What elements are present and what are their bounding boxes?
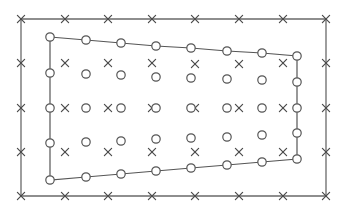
mesh-diagram xyxy=(0,0,344,215)
circle-marker-icon xyxy=(293,78,301,86)
circle-marker-icon xyxy=(117,104,125,112)
circle-marker-icon xyxy=(293,129,301,137)
circle-marker-icon xyxy=(117,170,125,178)
circle-marker-icon xyxy=(152,135,160,143)
circle-marker-icon xyxy=(223,75,231,83)
circle-marker-icon xyxy=(152,73,160,81)
circle-marker-icon xyxy=(258,158,266,166)
circle-marker-icon xyxy=(293,155,301,163)
circle-marker-icon xyxy=(293,52,301,60)
circle-marker-icon xyxy=(223,47,231,55)
circle-marker-icon xyxy=(293,104,301,112)
circle-marker-icon xyxy=(187,74,195,82)
circle-marker-icon xyxy=(46,139,54,147)
circle-marker-icon xyxy=(187,104,195,112)
circle-marker-icon xyxy=(152,104,160,112)
circle-marker-icon xyxy=(46,104,54,112)
circle-marker-icon xyxy=(258,76,266,84)
circle-marker-icon xyxy=(82,104,90,112)
circle-marker-icon xyxy=(258,49,266,57)
circle-marker-icon xyxy=(82,173,90,181)
circle-marker-icon xyxy=(46,176,54,184)
circle-marker-icon xyxy=(223,133,231,141)
circle-marker-icon xyxy=(223,161,231,169)
circle-marker-icon xyxy=(46,33,54,41)
circle-marker-icon xyxy=(117,137,125,145)
circle-marker-icon xyxy=(82,138,90,146)
circle-marker-icon xyxy=(187,164,195,172)
circle-marker-icon xyxy=(152,167,160,175)
circle-marker-icon xyxy=(223,104,231,112)
circle-marker-icon xyxy=(152,42,160,50)
circle-marker-icon xyxy=(187,134,195,142)
circle-marker-icon xyxy=(187,44,195,52)
circle-marker-icon xyxy=(46,69,54,77)
circle-marker-icon xyxy=(117,39,125,47)
circle-marker-icon xyxy=(82,70,90,78)
circle-marker-icon xyxy=(258,131,266,139)
circle-marker-icon xyxy=(258,104,266,112)
circle-marker-icon xyxy=(82,36,90,44)
circle-marker-icon xyxy=(117,71,125,79)
